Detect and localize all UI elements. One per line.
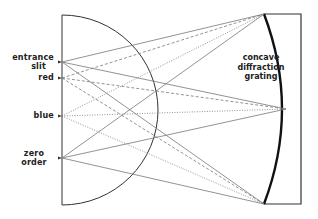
point-markers xyxy=(58,61,62,160)
ray-zero-top xyxy=(62,14,264,158)
label-grating-line1: concave xyxy=(231,53,291,63)
rays xyxy=(62,14,286,204)
ray-red-center xyxy=(62,78,286,109)
label-zero-order: zero order xyxy=(14,149,54,167)
label-grating-line3: grating xyxy=(231,72,291,82)
label-entrance-line2: slit xyxy=(6,62,54,71)
label-entrance-line1: entrance xyxy=(6,53,54,62)
diagram-canvas: entrance slit red blue zero order concav… xyxy=(0,0,318,219)
label-zero-line2: order xyxy=(14,158,54,167)
ray-blue-center xyxy=(62,109,286,116)
label-entrance-slit: entrance slit xyxy=(6,53,54,71)
ray-zero-bottom xyxy=(62,158,264,204)
ray-blue-bottom xyxy=(62,116,264,204)
arrow-slit-icon xyxy=(58,61,62,64)
label-red: red xyxy=(20,73,54,82)
label-zero-line1: zero xyxy=(14,149,54,158)
arrow-red-icon xyxy=(58,77,62,80)
spectrometer-diagram xyxy=(0,0,318,219)
grating-surface xyxy=(264,14,282,204)
ray-zero-center xyxy=(62,109,286,158)
ray-red-bottom xyxy=(62,78,264,204)
label-grating: concave diffraction grating xyxy=(231,53,291,82)
arrow-zero-icon xyxy=(58,157,62,160)
label-grating-line2: diffraction xyxy=(231,63,291,73)
label-blue: blue xyxy=(20,111,54,120)
arrow-blue-icon xyxy=(58,115,62,118)
